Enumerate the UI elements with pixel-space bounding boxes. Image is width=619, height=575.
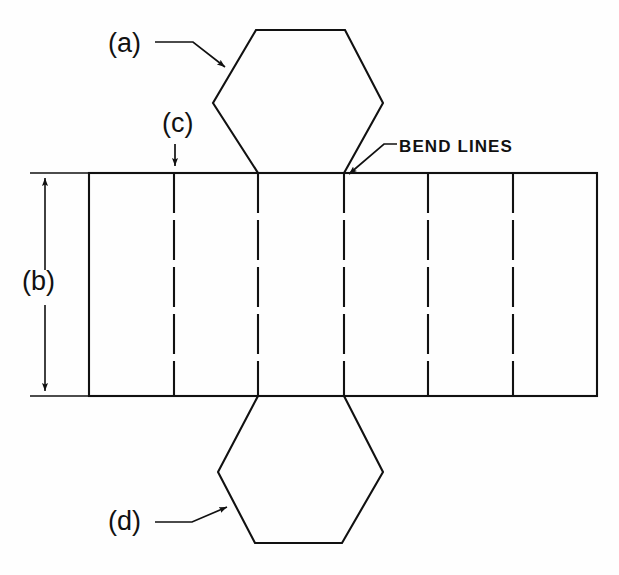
- label-a: (a): [108, 30, 141, 57]
- leader-a-line: [155, 42, 225, 67]
- leader-bend-lines-group: [349, 144, 397, 174]
- leader-bend-lines-line: [349, 144, 397, 174]
- diagram-page: (a) (c) (b) (d) BEND LINES: [0, 0, 619, 575]
- label-bend-lines: BEND LINES: [399, 138, 513, 155]
- label-d: (d): [108, 508, 141, 535]
- hexagon-bottom-outline: [218, 396, 383, 543]
- hexagon-top-outline: [213, 30, 383, 173]
- label-b: (b): [22, 268, 55, 295]
- leader-d-group: [155, 507, 227, 522]
- hexagon-bottom: [218, 396, 383, 543]
- flat-pattern-drawing: [0, 0, 619, 575]
- leader-d-line: [155, 507, 227, 522]
- label-c: (c): [162, 110, 193, 137]
- leader-a-group: [155, 42, 225, 67]
- bend-lines-group: [174, 173, 513, 396]
- hexagon-top: [213, 30, 383, 173]
